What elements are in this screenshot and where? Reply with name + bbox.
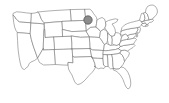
highlight-marker-icon[interactable]: [84, 16, 92, 24]
state-south-dakota[interactable]: [62, 20, 86, 31]
state-north-dakota[interactable]: [71, 9, 86, 21]
us-states-map: [0, 0, 169, 103]
state-wyoming[interactable]: [45, 22, 64, 38]
state-florida[interactable]: [114, 67, 131, 89]
us-outline-map-figure: [0, 0, 169, 103]
state-kansas[interactable]: [72, 36, 91, 49]
map-markers: [84, 16, 92, 24]
state-montana[interactable]: [38, 10, 71, 23]
state-oklahoma[interactable]: [72, 49, 92, 58]
state-colorado[interactable]: [54, 36, 72, 50]
state-new-jersey[interactable]: [137, 27, 141, 33]
